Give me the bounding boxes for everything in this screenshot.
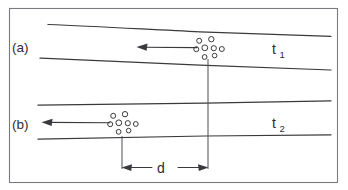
figure-container: (a) t 1 [0, 0, 348, 190]
panel-a-time-base: t [272, 41, 276, 57]
channel-displacement-diagram: (a) t 1 [0, 0, 348, 190]
panel-b-time-base: t [272, 115, 276, 131]
panel-a-time-subscript: 1 [280, 49, 285, 60]
dimension-label: d [157, 160, 165, 176]
panel-b-label: (b) [12, 117, 29, 132]
panel-a-label: (a) [12, 40, 29, 55]
panel-b-time-subscript: 2 [280, 123, 285, 134]
